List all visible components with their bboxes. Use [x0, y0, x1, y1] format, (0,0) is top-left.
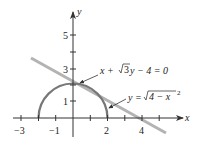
x-axis-label: x: [184, 112, 190, 123]
svg-text:2: 2: [177, 89, 181, 97]
svg-text:y − 4 = 0: y − 4 = 0: [129, 65, 168, 76]
svg-text:4 − x: 4 − x: [149, 91, 171, 102]
line-equation-pointer: [80, 75, 98, 83]
x-tick-label-2: 2: [104, 125, 109, 136]
x-tick-label-4: 4: [139, 125, 144, 136]
y-axis-label: y: [76, 6, 82, 17]
x-tick-label-neg1: −1: [49, 125, 60, 136]
line-equation-label: x + 3 y − 4 = 0: [99, 64, 168, 76]
x-tick-label-neg3: −3: [14, 125, 25, 136]
diagram-canvas: −3 −1 2 4 1 3 5 x y x + 3 y − 4 = 0 y = …: [0, 0, 201, 146]
coordinate-plot: −3 −1 2 4 1 3 5 x y x + 3 y − 4 = 0 y = …: [0, 0, 201, 146]
y-tick-label-3: 3: [63, 64, 68, 75]
curve-equation-label: y = 4 − x 2: [127, 89, 181, 103]
y-tick-label-5: 5: [63, 30, 68, 41]
svg-text:x +: x +: [99, 65, 114, 76]
svg-text:y =: y =: [127, 92, 142, 103]
svg-text:3: 3: [124, 64, 129, 75]
y-tick-label-1: 1: [63, 96, 68, 107]
